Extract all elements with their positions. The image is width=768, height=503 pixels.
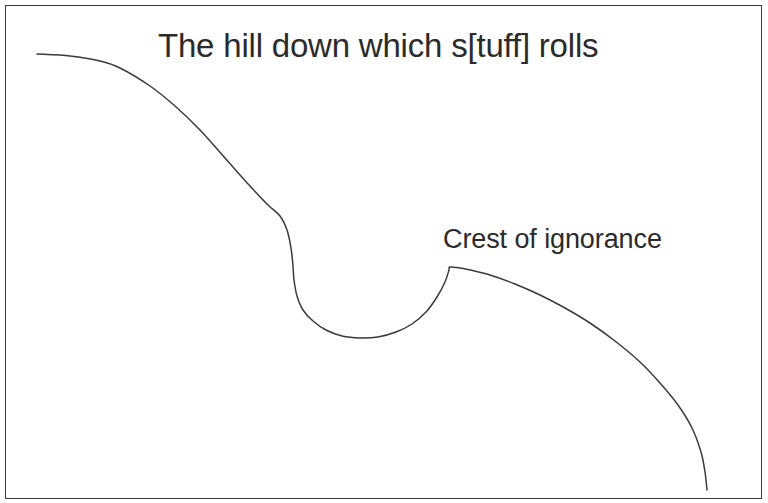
diagram-title: The hill down which s[tuff] rolls — [158, 29, 598, 62]
crest-of-ignorance-label: Crest of ignorance — [443, 226, 662, 253]
diagram-canvas: The hill down which s[tuff] rolls Crest … — [0, 0, 768, 503]
hill-curve-line — [37, 54, 707, 490]
